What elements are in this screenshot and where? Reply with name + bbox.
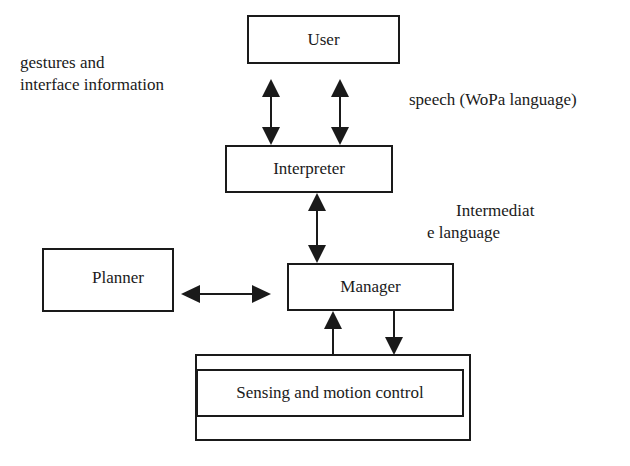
speech-text: speech (WoPa language) <box>409 90 577 109</box>
arrow-planner-manager <box>181 285 271 303</box>
planner-label: Planner <box>92 268 144 288</box>
manager-box: Manager <box>287 263 454 311</box>
gestures-line-1: gestures and <box>20 52 164 74</box>
sensing-inner-box: Sensing and motion control <box>196 369 464 417</box>
sensing-label: Sensing and motion control <box>236 383 423 403</box>
arrow-interpreter-manager <box>308 193 326 263</box>
manager-label: Manager <box>340 277 400 297</box>
intermediate-line-2: e language <box>427 222 534 244</box>
gestures-line-2: interface information <box>20 74 164 96</box>
speech-annotation: speech (WoPa language) <box>409 89 577 111</box>
interpreter-label: Interpreter <box>273 159 345 179</box>
intermediate-language-annotation: Intermediat e language <box>427 200 534 244</box>
user-box: User <box>247 15 400 64</box>
intermediate-line-1: Intermediat <box>427 200 534 222</box>
arrow-user-interpreter-speech <box>331 79 349 145</box>
interpreter-box: Interpreter <box>225 145 393 193</box>
arrow-manager-to-sensing <box>385 310 403 355</box>
planner-box: Planner <box>42 248 174 312</box>
arrow-sensing-to-manager <box>324 311 342 356</box>
arrow-user-interpreter-gestures <box>262 79 280 145</box>
user-label: User <box>307 30 339 50</box>
gestures-annotation: gestures and interface information <box>20 52 164 96</box>
